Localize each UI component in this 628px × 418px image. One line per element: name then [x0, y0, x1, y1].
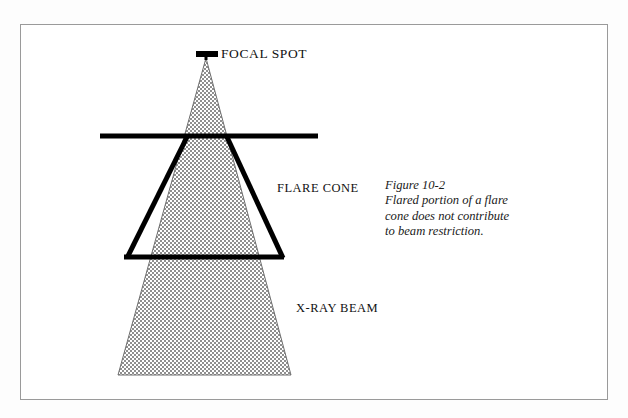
label-focal-spot: FOCAL SPOT	[221, 47, 307, 61]
label-flare-cone: FLARE CONE	[277, 182, 359, 195]
caption-line-1: Flared portion of a flare	[385, 193, 555, 208]
caption-line-3: to beam restriction.	[385, 224, 555, 239]
caption-line-2: cone does not contribute	[385, 209, 555, 224]
figure-page: FOCAL SPOT FLARE CONE X-RAY BEAM Figure …	[0, 0, 628, 418]
figure-caption: Figure 10-2 Flared portion of a flare co…	[385, 178, 555, 240]
label-xray-beam: X-RAY BEAM	[296, 302, 378, 315]
caption-title: Figure 10-2	[385, 178, 555, 193]
